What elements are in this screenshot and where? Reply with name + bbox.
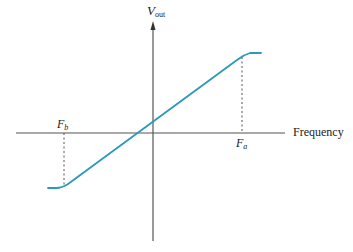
vout-axis-label: Vout <box>147 3 165 19</box>
fa-marker-label: Fa <box>236 136 247 151</box>
transfer-curve <box>48 53 261 188</box>
fb-marker-label: Fb <box>57 117 68 132</box>
vout-axis-arrow-icon <box>151 21 156 30</box>
frequency-axis-label: Frequency <box>293 125 344 140</box>
